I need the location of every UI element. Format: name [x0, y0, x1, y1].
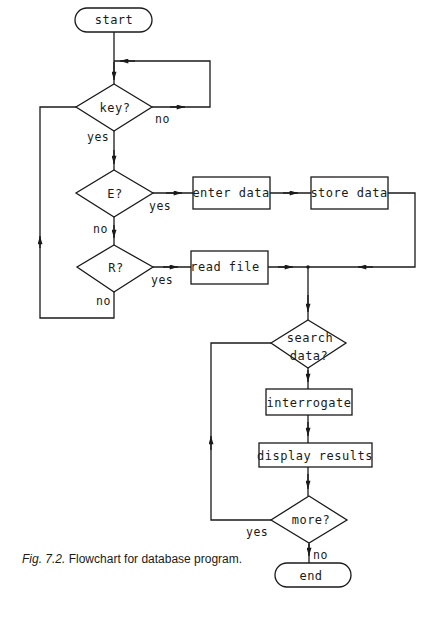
node-start-label: start — [95, 13, 134, 27]
label-more-no: no — [313, 548, 328, 562]
label-key-yes: yes — [87, 130, 109, 144]
node-enter-data-label: enter data — [192, 186, 269, 200]
node-key-label: key? — [100, 101, 131, 115]
node-store-data: store data — [310, 177, 388, 209]
figure-number: Fig. 7.2. — [22, 552, 65, 566]
node-e-label: E? — [107, 187, 122, 201]
node-read-file: read file — [190, 251, 268, 284]
label-r-no: no — [96, 294, 111, 308]
node-store-data-label: store data — [310, 186, 387, 200]
node-display-results-label: display results — [257, 449, 373, 463]
node-display-results: display results — [257, 443, 373, 467]
edge-more-yes-loop — [211, 343, 271, 520]
node-start: start — [75, 8, 152, 32]
label-e-no: no — [93, 222, 108, 236]
label-r-yes: yes — [151, 273, 173, 287]
node-interrogate-label: interrogate — [267, 396, 352, 410]
node-search-label-line2: data? — [290, 349, 329, 363]
label-more-yes: yes — [246, 525, 268, 539]
label-key-no: no — [155, 112, 170, 126]
node-r-decision: R? — [77, 245, 153, 292]
node-search-data-decision: search data? — [271, 320, 346, 368]
label-e-yes: yes — [149, 199, 171, 213]
node-enter-data: enter data — [192, 177, 270, 209]
node-search-label-line1: search — [287, 331, 333, 345]
figure-caption: Fig. 7.2. Flowchart for database program… — [22, 552, 242, 566]
node-interrogate: interrogate — [266, 389, 352, 415]
node-more-label: more? — [292, 513, 331, 527]
node-end-label: end — [299, 569, 322, 583]
node-end: end — [275, 563, 351, 587]
node-more-decision: more? — [271, 496, 347, 543]
node-key-decision: key? — [76, 84, 152, 131]
node-e-decision: E? — [76, 170, 153, 217]
node-r-label: R? — [108, 261, 123, 275]
node-read-file-label: read file — [190, 260, 260, 274]
figure-caption-text: Flowchart for database program. — [69, 552, 242, 566]
flowchart: start key? E? R? enter data store data r… — [0, 0, 442, 622]
